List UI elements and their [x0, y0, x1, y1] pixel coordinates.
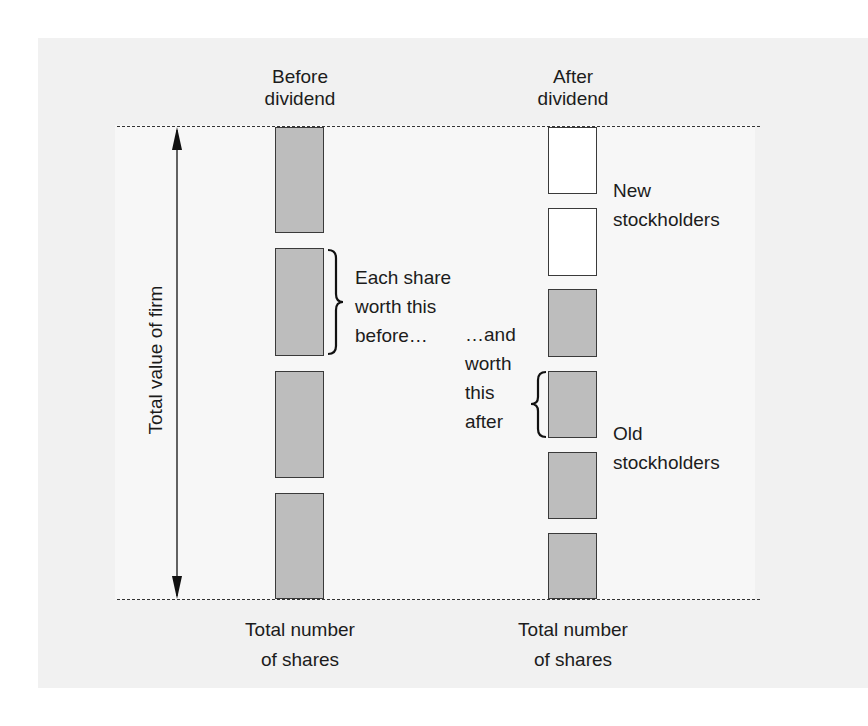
old-share-block [548, 533, 597, 599]
before-total-shares-label: Total number of shares [220, 615, 380, 675]
new-stockholders-label: New stockholders [613, 176, 763, 234]
old-share-block [275, 493, 324, 599]
old-share-block [275, 248, 324, 356]
total-value-arrow-icon [0, 0, 868, 726]
old-share-block [548, 371, 597, 438]
old-share-block [548, 289, 597, 357]
old-share-block [275, 127, 324, 233]
old-share-block [548, 452, 597, 519]
after-total-shares-label: Total number of shares [493, 615, 653, 675]
old-share-block [275, 371, 324, 478]
old-stockholders-label: Old stockholders [613, 419, 763, 477]
and-after-annotation: …and worth this after [465, 320, 545, 436]
brace-before-icon [328, 250, 343, 354]
total-value-of-firm-label: Total value of firm [145, 280, 167, 440]
new-share-block [548, 208, 597, 276]
new-share-block [548, 127, 597, 194]
